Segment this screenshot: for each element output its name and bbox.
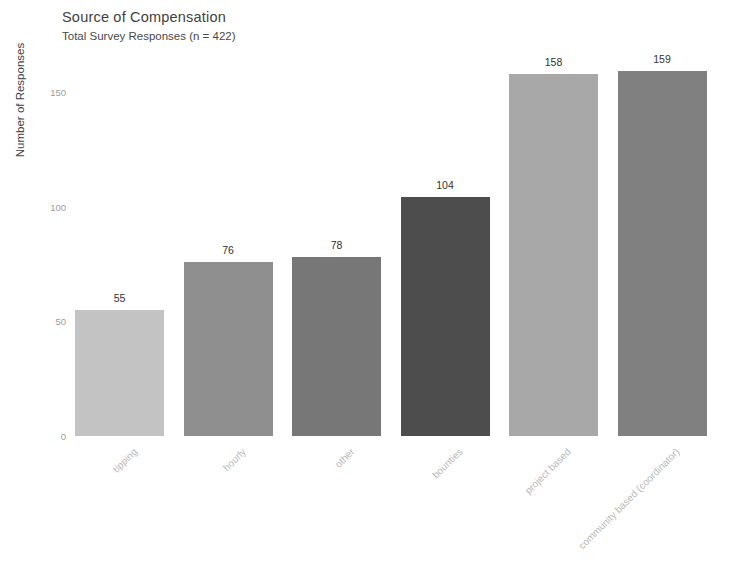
bar[interactable] xyxy=(401,197,490,436)
bar-value-label: 78 xyxy=(331,239,343,251)
y-axis-tick-label: 100 xyxy=(26,201,66,212)
bar-value-label: 76 xyxy=(222,244,234,256)
bar[interactable] xyxy=(509,74,598,436)
plot-area: 050100150 557678104158159 tippinghourlyo… xyxy=(0,0,737,584)
y-axis-tick-label: 0 xyxy=(26,431,66,442)
y-axis-tick-label: 150 xyxy=(26,87,66,98)
x-axis-tick-label: community based (coordinator) xyxy=(577,446,682,551)
y-axis-tick-label: 50 xyxy=(26,316,66,327)
bar[interactable] xyxy=(292,257,381,436)
bar-value-label: 104 xyxy=(436,179,454,191)
x-axis-tick-label: project based xyxy=(523,446,573,496)
bar-value-label: 158 xyxy=(545,56,563,68)
bar-value-label: 55 xyxy=(114,292,126,304)
x-axis-tick-label: other xyxy=(332,446,356,470)
x-axis-tick-label: hourly xyxy=(221,446,248,473)
x-axis-tick-label: bounties xyxy=(430,446,465,481)
bar[interactable] xyxy=(618,71,707,436)
x-axis-tick-label: tipping xyxy=(111,446,140,475)
bar[interactable] xyxy=(184,262,273,436)
bar-value-label: 159 xyxy=(653,53,671,65)
bar[interactable] xyxy=(75,310,164,436)
chart-container: Source of Compensation Total Survey Resp… xyxy=(0,0,737,584)
